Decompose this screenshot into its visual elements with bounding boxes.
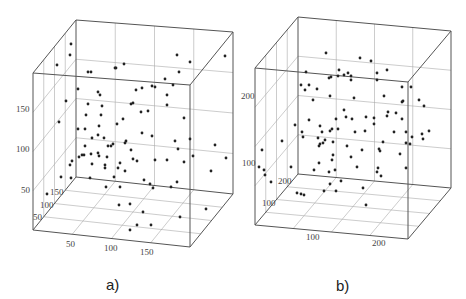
data-point [124, 170, 127, 173]
z-tick-label: 50 [21, 185, 31, 195]
data-point [263, 169, 266, 172]
data-point [124, 142, 127, 145]
data-point [56, 64, 59, 67]
z-tick-label: 100 [16, 144, 30, 154]
data-point [350, 75, 353, 78]
data-point [386, 69, 389, 72]
data-point [189, 138, 192, 141]
data-point [97, 91, 100, 94]
data-point [87, 103, 90, 106]
data-point [353, 97, 356, 100]
data-point [106, 156, 109, 159]
data-point [129, 229, 132, 232]
data-point [319, 125, 322, 128]
data-point [361, 149, 364, 152]
x-tick-label: 100 [104, 243, 118, 253]
data-point [335, 190, 338, 193]
y-tick-label: 100 [40, 200, 54, 210]
scatter3d-b: 100200200100200100 [241, 17, 451, 248]
data-point [77, 128, 80, 131]
data-point [386, 115, 389, 118]
data-point [428, 130, 431, 133]
data-point [317, 137, 320, 140]
data-point [83, 154, 86, 157]
data-point [330, 76, 333, 79]
data-point [97, 134, 100, 137]
x-tick-label: 200 [372, 238, 386, 248]
data-point [302, 136, 305, 139]
data-point [405, 167, 408, 170]
data-point [58, 121, 61, 124]
data-point [85, 114, 88, 117]
data-point [110, 145, 113, 148]
data-point [373, 123, 376, 126]
data-point [294, 124, 297, 127]
data-point [343, 109, 346, 112]
data-point [308, 119, 311, 122]
data-point [119, 186, 122, 189]
data-point [318, 145, 321, 148]
data-point [405, 131, 408, 134]
data-point [69, 164, 72, 167]
data-point [104, 167, 107, 170]
data-point [60, 176, 63, 179]
data-point [338, 69, 341, 72]
data-point [312, 99, 315, 102]
data-point [214, 144, 217, 147]
data-point [210, 170, 213, 173]
x-tick-label: 50 [66, 239, 76, 249]
data-point [335, 118, 338, 121]
data-point [382, 141, 385, 144]
y-tick-label: 100 [262, 198, 276, 208]
data-point [130, 149, 133, 152]
data-point [347, 72, 350, 75]
data-point [313, 169, 316, 172]
data-point [97, 152, 100, 155]
data-point [405, 142, 408, 145]
data-point [136, 160, 139, 163]
data-point [176, 181, 179, 184]
data-point [70, 177, 73, 180]
data-point [123, 63, 126, 66]
data-point [321, 131, 324, 134]
data-point [350, 156, 353, 159]
data-point [423, 105, 426, 108]
data-point [174, 140, 177, 143]
data-point [264, 174, 267, 177]
data-point [71, 160, 74, 163]
data-point [281, 140, 284, 143]
data-point [305, 71, 308, 74]
data-point [142, 211, 145, 214]
scatter3d-a: 501001501501005015010050 [16, 20, 233, 257]
data-point [300, 193, 303, 196]
data-point [401, 118, 404, 121]
data-point [117, 167, 120, 170]
z-tick-label: 100 [242, 158, 256, 168]
data-point [151, 85, 154, 88]
data-point [324, 139, 327, 142]
data-point [176, 54, 179, 57]
data-point [345, 116, 348, 119]
data-point [332, 141, 335, 144]
data-point [141, 87, 144, 90]
data-point [258, 166, 261, 169]
data-point [329, 130, 332, 133]
data-point [303, 194, 306, 197]
data-point [325, 52, 328, 55]
data-point [170, 186, 173, 189]
data-point [308, 84, 311, 87]
data-point [122, 118, 125, 121]
data-point [224, 55, 227, 58]
z-tick-label: 200 [241, 91, 255, 101]
data-point [350, 79, 353, 82]
data-point [91, 137, 94, 140]
data-point [359, 57, 362, 60]
data-point [411, 136, 414, 139]
data-point [118, 204, 121, 207]
data-point [70, 43, 73, 46]
data-point [105, 186, 108, 189]
data-point [334, 169, 337, 172]
data-point [418, 99, 421, 102]
data-point [179, 216, 182, 219]
z-tick-label: 150 [16, 104, 30, 114]
